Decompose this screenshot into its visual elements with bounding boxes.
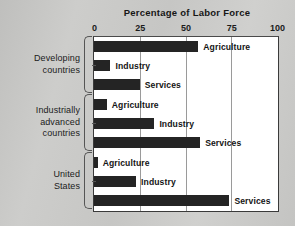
- labor-force-bar-chart: Percentage of Labor Force 0255075100 Agr…: [0, 0, 295, 226]
- bar-row: Agriculture: [94, 157, 150, 168]
- x-tick-label-50: 50: [181, 23, 191, 33]
- bar-industrially-advanced-countries-agriculture: [94, 99, 107, 110]
- bar-label: Services: [205, 138, 241, 148]
- bar-label: Industry: [141, 177, 176, 187]
- group-label-line: Industrially: [0, 105, 80, 117]
- group-label-industrially-advanced-countries: Industriallyadvancedcountries: [0, 105, 80, 140]
- x-tick-label-100: 100: [270, 23, 285, 33]
- bar-developing-countries-services: [94, 79, 140, 90]
- bar-row: Services: [94, 137, 241, 148]
- bar-united-states-services: [94, 195, 229, 206]
- chart-title: Percentage of Labor Force: [93, 7, 281, 18]
- group-brace: [84, 94, 92, 151]
- group-brace: [84, 36, 92, 93]
- bars-layer: AgricultureIndustryServicesAgricultureIn…: [94, 37, 278, 211]
- group-label-line: United: [0, 169, 80, 181]
- group-label-line: countries: [0, 128, 80, 140]
- bar-developing-countries-industry: [94, 60, 110, 71]
- bar-label: Agriculture: [103, 158, 150, 168]
- bar-row: Industry: [94, 176, 176, 187]
- group-label-line: countries: [0, 65, 80, 77]
- x-tick-label-75: 75: [227, 23, 237, 33]
- bar-united-states-industry: [94, 176, 136, 187]
- group-brace: [84, 152, 92, 209]
- group-label-line: Developing: [0, 53, 80, 65]
- bar-row: Services: [94, 79, 181, 90]
- bar-label: Agriculture: [203, 42, 250, 52]
- bar-label: Industry: [115, 61, 150, 71]
- x-axis-tick-labels: 0255075100: [0, 23, 295, 36]
- bar-label: Services: [234, 196, 270, 206]
- bar-developing-countries-agriculture: [94, 41, 198, 52]
- bar-label: Industry: [159, 119, 194, 129]
- bar-row: Agriculture: [94, 41, 250, 52]
- x-tick-label-25: 25: [135, 23, 145, 33]
- group-label-line: advanced: [0, 117, 80, 129]
- bar-label: Services: [145, 80, 181, 90]
- bar-label: Agriculture: [112, 100, 159, 110]
- group-label-united-states: UnitedStates: [0, 169, 80, 192]
- bar-row: Agriculture: [94, 99, 159, 110]
- bar-united-states-agriculture: [94, 157, 98, 168]
- plot-area: AgricultureIndustryServicesAgricultureIn…: [93, 36, 279, 212]
- bar-row: Services: [94, 195, 271, 206]
- bar-industrially-advanced-countries-services: [94, 137, 200, 148]
- bar-row: Industry: [94, 60, 150, 71]
- bar-row: Industry: [94, 118, 194, 129]
- group-label-line: States: [0, 181, 80, 193]
- bar-industrially-advanced-countries-industry: [94, 118, 154, 129]
- x-tick-label-0: 0: [92, 23, 97, 33]
- group-label-developing-countries: Developingcountries: [0, 53, 80, 76]
